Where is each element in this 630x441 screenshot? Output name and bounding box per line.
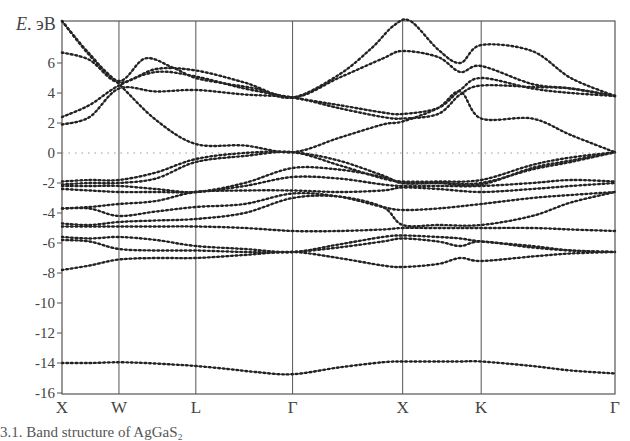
- x-axis: XWLΓXKΓ: [56, 398, 620, 417]
- band-curves: [62, 19, 615, 374]
- x-tick-label: Γ: [610, 398, 620, 417]
- x-tick-label: W: [111, 398, 128, 417]
- y-tick-label: -12: [35, 325, 55, 341]
- band-band10: [62, 152, 615, 192]
- y-tick-label: 0: [48, 145, 56, 161]
- y-axis-unit: . эВ: [27, 14, 56, 34]
- figure-caption: 3.1. Band structure of AgGaS₂: [0, 424, 183, 441]
- x-tick-label: X: [56, 398, 68, 417]
- band-band8: [62, 183, 615, 209]
- band-band1: [62, 361, 615, 374]
- y-tick-label: -4: [43, 205, 56, 221]
- y-tick-label: -2: [43, 175, 56, 191]
- y-tick-label: -10: [35, 295, 55, 311]
- x-tick-label: Γ: [288, 398, 298, 417]
- y-tick-label: -14: [35, 355, 55, 371]
- plot-frame: [62, 21, 615, 394]
- band-band7: [62, 192, 615, 216]
- x-tick-label: L: [191, 398, 201, 417]
- band-band2: [62, 252, 615, 270]
- band-band9: [62, 177, 615, 193]
- band-band5: [62, 226, 615, 231]
- y-axis-label: E. эВ: [15, 14, 56, 34]
- y-tick-label: -6: [43, 235, 56, 251]
- y-tick-label: 6: [48, 55, 56, 71]
- y-tick-label: -16: [35, 385, 55, 401]
- y-tick-label: -8: [43, 265, 56, 281]
- x-tick-label: K: [475, 398, 488, 417]
- y-tick-label: 4: [48, 85, 56, 101]
- y-axis-symbol: E: [15, 14, 27, 34]
- x-tick-label: X: [397, 398, 409, 417]
- y-tick-label: 2: [48, 115, 56, 131]
- y-axis: 6420-2-4-6-8-10-12-14-16: [35, 55, 62, 401]
